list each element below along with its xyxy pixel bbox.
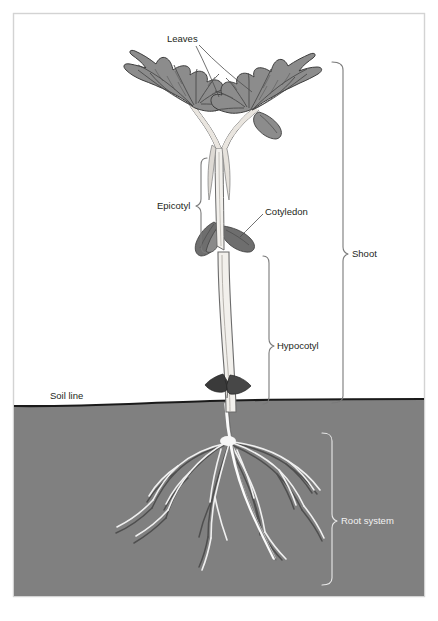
root-crown (220, 436, 236, 446)
soil-fill (14, 399, 424, 596)
label-epicotyl: Epicotyl (157, 200, 190, 211)
soil-region (14, 399, 424, 596)
label-soil-line: Soil line (50, 390, 83, 401)
label-shoot: Shoot (352, 248, 377, 259)
label-cotyledon: Cotyledon (265, 206, 308, 217)
label-hypocotyl: Hypocotyl (277, 340, 319, 351)
label-root-system: Root system (341, 515, 394, 526)
seedling-diagram: Leaves Epicotyl Cotyledon Hypocotyl Soil… (0, 0, 438, 621)
diagram-figure: Leaves Epicotyl Cotyledon Hypocotyl Soil… (0, 0, 438, 621)
label-leaves: Leaves (167, 33, 198, 44)
